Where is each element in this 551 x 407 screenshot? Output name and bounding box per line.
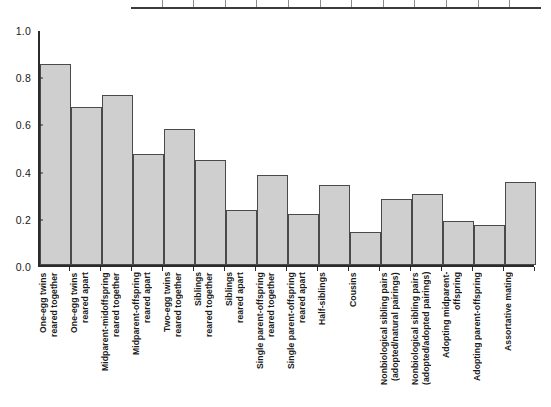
y-axis-tick-label: 1.0	[16, 25, 31, 37]
x-axis-category-label: Nonbiological sibling pairs (adopted/ado…	[410, 272, 441, 402]
bar	[164, 129, 195, 265]
x-axis-tick-mark	[379, 267, 380, 271]
figure-bar-chart-correlations: 1.00.80.60.40.20.0 One-egg twins reared …	[0, 0, 551, 407]
x-axis-category-label: Assortative mating	[503, 272, 534, 402]
x-axis-tick-mark	[69, 267, 70, 271]
table-remnant-cell	[447, 0, 479, 7]
table-remnant-cell	[510, 0, 541, 7]
bar	[474, 225, 505, 265]
bar	[195, 160, 226, 265]
table-remnant-cell	[194, 0, 226, 7]
x-axis-category-label: One-egg twins reared apart	[69, 272, 100, 402]
x-axis-category-label: Midparent-offspring reared apart	[131, 272, 162, 402]
x-axis-tick-mark	[286, 267, 287, 271]
bar	[381, 199, 412, 265]
y-axis-tick-mark	[38, 78, 43, 79]
y-axis-tick-mark	[38, 125, 43, 126]
table-remnant-cell	[479, 0, 511, 7]
x-axis-category-label: Single parent-offspring reared together	[255, 272, 286, 402]
table-remnant-cell	[226, 0, 258, 7]
x-axis-category-label: Siblings reared together	[193, 272, 224, 402]
table-remnant-bottom-edge	[131, 0, 541, 9]
table-remnant-cell	[321, 0, 353, 7]
x-axis-tick-mark	[503, 267, 504, 271]
y-axis-tick-label: 0.2	[16, 214, 31, 226]
x-axis-tick-mark	[131, 267, 132, 271]
table-remnant-cell	[163, 0, 195, 7]
x-axis-tick-mark	[255, 267, 256, 271]
bar	[443, 221, 474, 265]
table-remnant-cell	[257, 0, 289, 7]
x-axis-tick-mark	[317, 267, 318, 271]
bar	[40, 64, 71, 265]
x-axis-tick-mark	[224, 267, 225, 271]
table-remnant-cell	[289, 0, 321, 7]
plot-area	[38, 31, 534, 267]
x-axis-category-label: Nonbiological sibling pairs (adopted/nat…	[379, 272, 410, 402]
bars-container	[40, 31, 534, 265]
x-axis-category-label: Single parent-offspring reared apart	[286, 272, 317, 402]
x-axis-tick-mark	[100, 267, 101, 271]
x-axis-category-label: Midparent-midoffspring reared together	[100, 272, 131, 402]
bar	[350, 232, 381, 265]
bar	[412, 194, 443, 265]
y-axis-tick-mark	[38, 172, 43, 173]
x-axis-tick-mark	[410, 267, 411, 271]
x-axis-tick-mark	[534, 267, 535, 271]
x-axis-tick-mark	[348, 267, 349, 271]
y-axis-tick-mark	[38, 219, 43, 220]
y-axis: 1.00.80.60.40.20.0	[0, 31, 31, 267]
bar	[319, 185, 350, 265]
x-axis-category-label: Adopting parent-offspring	[472, 272, 503, 402]
table-remnant-cell	[131, 0, 163, 7]
x-axis-labels: One-egg twins reared togetherOne-egg twi…	[38, 272, 534, 407]
y-axis-tick-label: 0.8	[16, 72, 31, 84]
table-remnant-cell	[384, 0, 416, 7]
x-axis-category-label: Half-siblings	[317, 272, 348, 402]
x-axis-tick-mark	[472, 267, 473, 271]
y-axis-tick-label: 0.0	[16, 261, 31, 273]
x-axis-tick-mark	[162, 267, 163, 271]
x-axis-category-label: Adopting midparent- offspring	[441, 272, 472, 402]
y-axis-tick-label: 0.6	[16, 119, 31, 131]
x-axis-category-label: Cousins	[348, 272, 379, 402]
bar	[102, 95, 133, 265]
x-axis-category-label: Two-egg twins reared together	[162, 272, 193, 402]
x-axis-category-label: Siblings reared apart	[224, 272, 255, 402]
bar	[288, 214, 319, 265]
table-remnant-cell	[415, 0, 447, 7]
bar	[505, 182, 536, 265]
x-axis-tick-mark	[193, 267, 194, 271]
y-axis-tick-label: 0.4	[16, 167, 31, 179]
x-axis-category-label: One-egg twins reared together	[38, 272, 69, 402]
bar	[226, 210, 257, 265]
table-remnant-cell	[352, 0, 384, 7]
x-axis-tick-mark	[441, 267, 442, 271]
bar	[133, 154, 164, 265]
bar	[257, 175, 288, 265]
bar	[71, 107, 102, 265]
